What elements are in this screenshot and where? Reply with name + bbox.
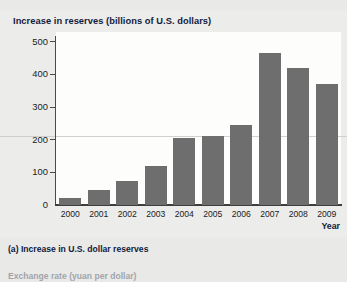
bar	[59, 198, 81, 205]
bar-slot	[284, 32, 313, 205]
bar	[145, 166, 167, 205]
y-axis-tick-label: 400	[32, 68, 48, 79]
x-axis-tick-label: 2005	[199, 209, 228, 219]
next-figure-caption-partial: Exchange rate (yuan per dollar)	[8, 271, 136, 281]
y-axis-tick-label: 300	[32, 101, 48, 112]
bar-slot	[56, 32, 85, 205]
chart-title: Increase in reserves (billions of U.S. d…	[13, 16, 211, 26]
y-axis-tick-label: 100	[32, 166, 48, 177]
x-axis-tick-label: 2007	[256, 209, 285, 219]
bar	[116, 181, 138, 205]
bar-slot	[199, 32, 228, 205]
bar-series	[56, 32, 341, 205]
x-axis-tick-label: 2004	[170, 209, 199, 219]
chart-panel: Increase in reserves (billions of U.S. d…	[0, 10, 347, 238]
x-axis-title: Year	[321, 221, 340, 231]
bar-slot	[85, 32, 114, 205]
x-axis-tick-label: 2003	[142, 209, 171, 219]
bar	[230, 125, 252, 205]
bar	[287, 68, 309, 205]
bar-slot	[170, 32, 199, 205]
bar	[316, 84, 338, 205]
bar	[88, 190, 110, 205]
bar-slot	[256, 32, 285, 205]
x-axis-tick-label: 2001	[85, 209, 114, 219]
bar-slot	[227, 32, 256, 205]
figure-container: Increase in reserves (billions of U.S. d…	[0, 0, 347, 282]
x-axis-tick-label: 2000	[56, 209, 85, 219]
bar	[202, 136, 224, 205]
bar	[259, 53, 281, 205]
bar-slot	[142, 32, 171, 205]
bar	[173, 138, 195, 205]
y-axis-tick-label: 200	[32, 134, 48, 145]
y-axis-tick-label: 0	[43, 199, 48, 210]
x-axis-tick-label: 2008	[284, 209, 313, 219]
x-axis-tick-label: 2006	[227, 209, 256, 219]
x-axis-tick-label: 2009	[313, 209, 342, 219]
figure-caption-a: (a) Increase in U.S. dollar reserves	[8, 244, 148, 254]
y-axis-tick-label: 500	[32, 36, 48, 47]
x-axis-tick-label: 2002	[113, 209, 142, 219]
bar-slot	[113, 32, 142, 205]
bar-slot	[313, 32, 342, 205]
